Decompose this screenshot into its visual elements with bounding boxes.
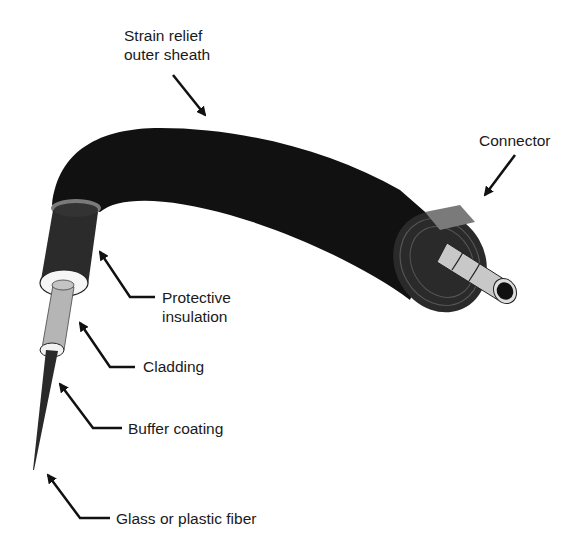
label-buffer-coating: Buffer coating xyxy=(128,419,223,438)
label-cladding: Cladding xyxy=(143,357,204,376)
label-fiber: Glass or plastic fiber xyxy=(116,509,256,528)
label-line: Strain relief xyxy=(124,26,210,45)
label-line: Cladding xyxy=(143,357,204,376)
arrow-buffer-coating xyxy=(60,384,122,428)
arrow-connector xyxy=(485,155,515,195)
label-line: Protective xyxy=(162,288,231,307)
arrow-fiber xyxy=(48,475,110,518)
label-line: Connector xyxy=(479,131,551,150)
label-line: outer sheath xyxy=(124,45,210,64)
arrow-protective-insulation xyxy=(100,252,155,297)
fiber-optic-cable-diagram: Strain relief outer sheath Connector Pro… xyxy=(0,0,583,558)
arrow-strain-relief xyxy=(173,75,205,115)
label-protective-insulation: Protective insulation xyxy=(162,288,231,326)
arrow-cladding xyxy=(80,323,135,367)
label-line: Glass or plastic fiber xyxy=(116,509,256,528)
label-connector: Connector xyxy=(479,131,551,150)
fiber-strand xyxy=(33,350,58,470)
cable-illustration xyxy=(0,0,583,558)
label-strain-relief: Strain relief outer sheath xyxy=(124,26,210,64)
outer-sheath xyxy=(52,128,440,300)
label-line: Buffer coating xyxy=(128,419,223,438)
label-line: insulation xyxy=(162,307,231,326)
